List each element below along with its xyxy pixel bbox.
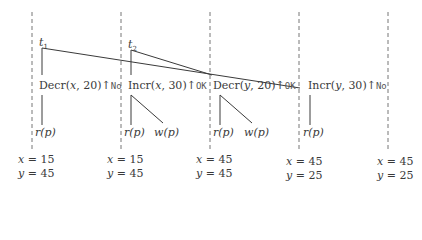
transaction-t2: t2 — [128, 39, 137, 53]
up-arrow-icon: ↑ — [367, 79, 376, 92]
result-badge: OK — [285, 81, 296, 91]
state-3: x = 45y = 25 — [286, 155, 322, 183]
state-1: x = 15y = 45 — [107, 153, 143, 181]
write-p-2: w(p) — [154, 127, 179, 138]
result-badge: No — [111, 81, 122, 91]
decr-y-write-branch — [220, 95, 252, 123]
transaction-t1: t1 — [39, 37, 48, 51]
state-0: x = 15y = 45 — [18, 153, 54, 181]
operation-decr-y: Decr(y, 20)↑OK — [213, 80, 296, 91]
state-2: x = 45y = 45 — [196, 153, 232, 181]
incr-x-write-branch — [131, 95, 163, 123]
up-arrow-icon: ↑ — [276, 79, 285, 92]
up-arrow-icon: ↑ — [187, 79, 196, 92]
read-p-3: r(p) — [213, 127, 234, 138]
write-p-3: w(p) — [244, 127, 269, 138]
operation-incr-y: Incr(y, 30)↑No — [308, 80, 387, 91]
operation-incr-x: Incr(x, 30)↑OK — [128, 80, 207, 91]
read-p-4: r(p) — [303, 127, 324, 138]
read-p-1: r(p) — [35, 127, 56, 138]
read-p-2: r(p) — [124, 127, 145, 138]
operation-decr-x: Decr(x, 20)↑No — [39, 80, 122, 91]
up-arrow-icon: ↑ — [102, 79, 111, 92]
result-badge: No — [376, 81, 387, 91]
result-badge: OK — [196, 81, 207, 91]
state-4: x = 45y = 25 — [377, 155, 413, 183]
t2-link-decr-y — [131, 50, 212, 75]
